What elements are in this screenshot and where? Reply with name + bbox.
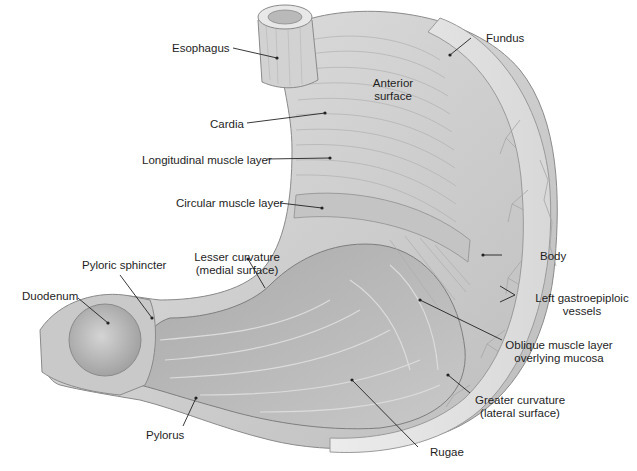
label-pylorus: Pylorus xyxy=(146,428,184,442)
label-body: Body xyxy=(540,249,566,263)
label-anterior-surface-line1: Anterior xyxy=(368,76,418,90)
label-circular-muscle-layer: Circular muscle layer xyxy=(176,196,283,210)
label-greater-curvature-line1: Greater curvature xyxy=(470,393,570,407)
label-esophagus: Esophagus xyxy=(172,41,230,55)
label-oblique-muscle-line1: Oblique muscle layer xyxy=(505,338,613,352)
label-lesser-curvature-line2: (medial surface) xyxy=(188,263,286,277)
label-left-gastroepiploic-line2: vessels xyxy=(530,304,634,318)
label-fundus: Fundus xyxy=(486,31,524,45)
label-lesser-curvature-line1: Lesser curvature xyxy=(188,250,286,264)
label-rugae: Rugae xyxy=(430,445,464,459)
clipped-caption xyxy=(52,462,312,471)
label-cardia: Cardia xyxy=(210,117,244,131)
label-duodenum: Duodenum xyxy=(22,289,78,303)
label-greater-curvature-line2: (lateral surface) xyxy=(470,406,570,420)
label-oblique-muscle-line2: overlying mucosa xyxy=(505,351,613,365)
duodenum-lumen xyxy=(69,304,141,376)
label-longitudinal-muscle-layer: Longitudinal muscle layer xyxy=(142,153,272,167)
stomach-diagram: Esophagus Fundus Anterior surface Cardia… xyxy=(0,0,637,471)
label-left-gastroepiploic-line1: Left gastroepiploic xyxy=(530,291,634,305)
label-anterior-surface-line2: surface xyxy=(368,89,418,103)
label-pyloric-sphincter: Pyloric sphincter xyxy=(82,258,166,272)
